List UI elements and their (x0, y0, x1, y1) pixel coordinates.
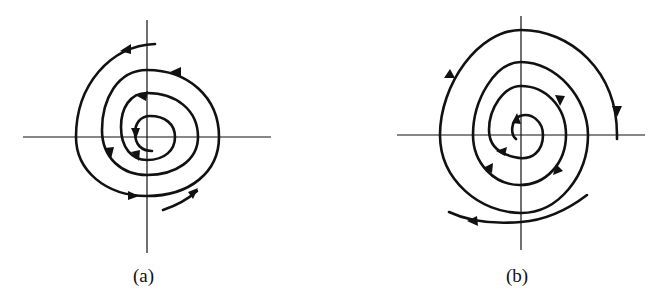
arrow-icon (444, 69, 455, 78)
spiral-trajectory-b (440, 30, 617, 213)
panel-label-a: (a) (133, 265, 154, 287)
arrow-icon (512, 113, 521, 124)
panel-a (23, 20, 271, 253)
arrow-icon (467, 216, 478, 226)
arrow-icon (612, 106, 622, 117)
outer-arc-b (449, 195, 587, 223)
panel-b (397, 16, 645, 250)
figure-canvas (0, 0, 660, 302)
arrow-icon (128, 191, 139, 200)
panel-label-b: (b) (506, 265, 528, 287)
